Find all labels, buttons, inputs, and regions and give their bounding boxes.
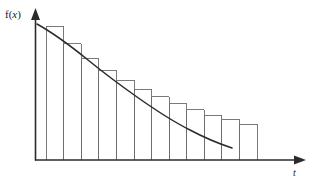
y-axis-label: f(x): [5, 9, 21, 20]
riemann-bar: [187, 110, 205, 160]
riemann-bar: [169, 104, 187, 160]
function-curve: [37, 24, 232, 148]
riemann-bar: [46, 26, 64, 160]
y-axis-arrowhead: [31, 8, 40, 20]
riemann-bar: [222, 120, 240, 160]
y-axis-label-suffix: ): [17, 8, 21, 20]
riemann-bar: [240, 124, 258, 160]
riemann-bar: [64, 44, 82, 160]
riemann-bar: [99, 70, 117, 160]
x-axis-arrowhead: [294, 156, 306, 165]
riemann-bar: [81, 59, 99, 161]
riemann-bar: [152, 97, 170, 160]
bars-group: [46, 26, 257, 160]
riemann-bar: [134, 89, 152, 160]
x-axis-label: t: [293, 168, 296, 178]
plot-canvas: [0, 0, 313, 187]
riemann-sum-figure: f(x) t: [0, 0, 313, 187]
